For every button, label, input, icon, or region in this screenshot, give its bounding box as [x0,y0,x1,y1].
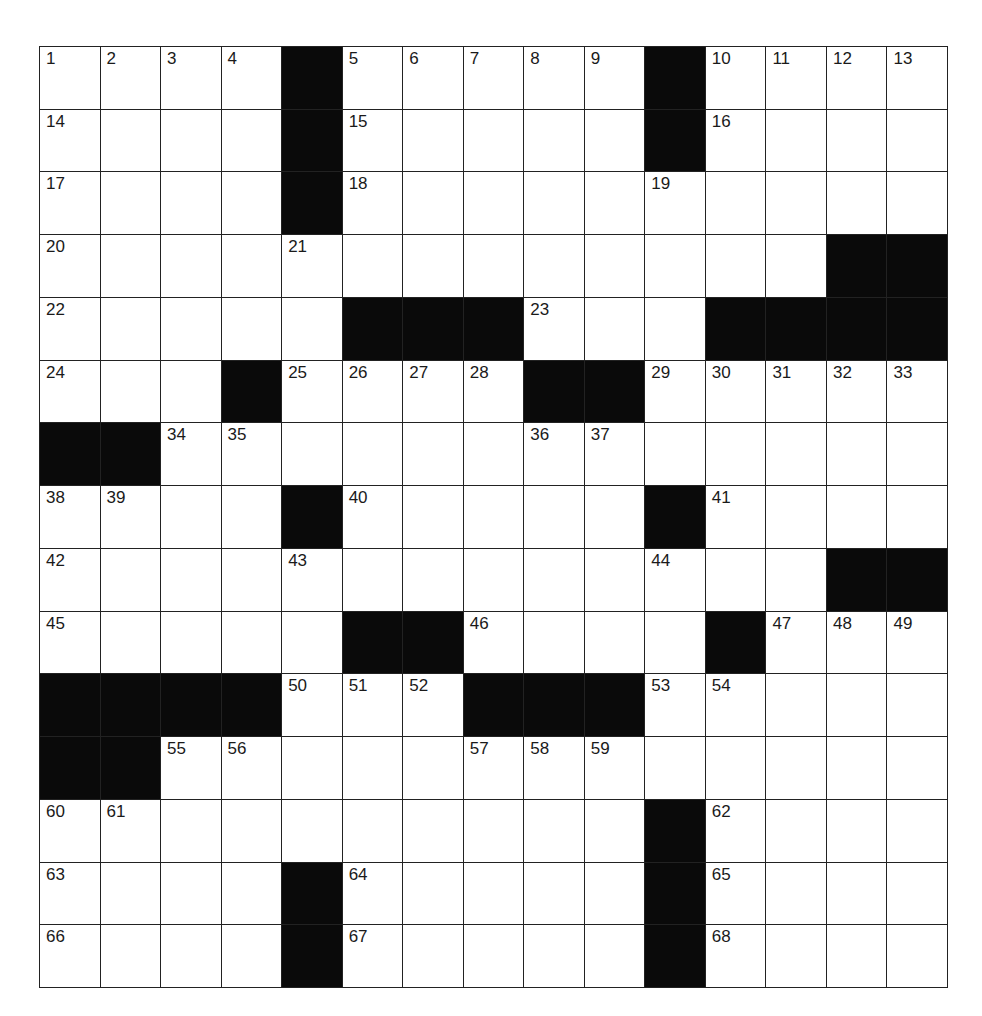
grid-cell[interactable]: 48 [827,612,888,675]
grid-cell[interactable] [222,612,283,675]
grid-cell[interactable]: 67 [343,925,404,988]
grid-cell[interactable] [827,925,888,988]
grid-cell[interactable] [524,800,585,863]
grid-cell[interactable] [222,298,283,361]
grid-cell[interactable]: 19 [645,172,706,235]
grid-cell[interactable] [464,800,525,863]
grid-cell[interactable] [101,235,162,298]
grid-cell[interactable] [887,737,948,800]
grid-cell[interactable] [222,549,283,612]
grid-cell[interactable] [101,925,162,988]
grid-cell[interactable]: 14 [40,110,101,173]
grid-cell[interactable] [282,612,343,675]
grid-cell[interactable]: 42 [40,549,101,612]
grid-cell[interactable] [403,235,464,298]
grid-cell[interactable] [161,612,222,675]
grid-cell[interactable] [101,361,162,424]
grid-cell[interactable] [827,423,888,486]
grid-cell[interactable]: 16 [706,110,767,173]
grid-cell[interactable] [585,172,646,235]
grid-cell[interactable]: 6 [403,47,464,110]
grid-cell[interactable] [282,423,343,486]
grid-cell[interactable] [343,423,404,486]
grid-cell[interactable] [161,235,222,298]
grid-cell[interactable] [585,800,646,863]
grid-cell[interactable]: 50 [282,674,343,737]
grid-cell[interactable] [524,863,585,926]
grid-cell[interactable]: 27 [403,361,464,424]
grid-cell[interactable] [766,800,827,863]
grid-cell[interactable]: 41 [706,486,767,549]
grid-cell[interactable] [645,737,706,800]
grid-cell[interactable]: 31 [766,361,827,424]
grid-cell[interactable]: 46 [464,612,525,675]
grid-cell[interactable]: 49 [887,612,948,675]
grid-cell[interactable] [101,549,162,612]
grid-cell[interactable] [585,486,646,549]
grid-cell[interactable] [343,235,404,298]
grid-cell[interactable] [827,863,888,926]
grid-cell[interactable]: 61 [101,800,162,863]
grid-cell[interactable] [464,549,525,612]
grid-cell[interactable]: 22 [40,298,101,361]
grid-cell[interactable] [766,737,827,800]
grid-cell[interactable]: 36 [524,423,585,486]
grid-cell[interactable]: 12 [827,47,888,110]
grid-cell[interactable]: 10 [706,47,767,110]
grid-cell[interactable] [101,612,162,675]
grid-cell[interactable]: 11 [766,47,827,110]
grid-cell[interactable]: 15 [343,110,404,173]
grid-cell[interactable] [161,172,222,235]
grid-cell[interactable] [585,298,646,361]
grid-cell[interactable] [645,423,706,486]
grid-cell[interactable] [766,549,827,612]
grid-cell[interactable]: 62 [706,800,767,863]
grid-cell[interactable]: 55 [161,737,222,800]
grid-cell[interactable] [101,863,162,926]
grid-cell[interactable]: 39 [101,486,162,549]
grid-cell[interactable] [887,800,948,863]
grid-cell[interactable] [524,925,585,988]
grid-cell[interactable] [403,925,464,988]
grid-cell[interactable] [645,298,706,361]
grid-cell[interactable]: 4 [222,47,283,110]
grid-cell[interactable]: 66 [40,925,101,988]
grid-cell[interactable]: 60 [40,800,101,863]
grid-cell[interactable]: 45 [40,612,101,675]
grid-cell[interactable] [464,863,525,926]
grid-cell[interactable]: 65 [706,863,767,926]
grid-cell[interactable] [403,863,464,926]
grid-cell[interactable] [827,172,888,235]
grid-cell[interactable] [222,925,283,988]
grid-cell[interactable] [706,549,767,612]
grid-cell[interactable]: 7 [464,47,525,110]
grid-cell[interactable]: 17 [40,172,101,235]
grid-cell[interactable] [343,800,404,863]
grid-cell[interactable]: 40 [343,486,404,549]
grid-cell[interactable] [827,737,888,800]
grid-cell[interactable] [585,235,646,298]
grid-cell[interactable]: 35 [222,423,283,486]
grid-cell[interactable] [343,549,404,612]
grid-cell[interactable]: 3 [161,47,222,110]
grid-cell[interactable] [101,110,162,173]
grid-cell[interactable] [827,486,888,549]
grid-cell[interactable]: 18 [343,172,404,235]
grid-cell[interactable] [585,110,646,173]
grid-cell[interactable]: 53 [645,674,706,737]
grid-cell[interactable] [464,172,525,235]
grid-cell[interactable] [222,235,283,298]
grid-cell[interactable] [645,235,706,298]
grid-cell[interactable]: 26 [343,361,404,424]
grid-cell[interactable]: 43 [282,549,343,612]
grid-cell[interactable] [766,486,827,549]
grid-cell[interactable]: 28 [464,361,525,424]
grid-cell[interactable]: 58 [524,737,585,800]
grid-cell[interactable] [585,549,646,612]
grid-cell[interactable] [706,235,767,298]
grid-cell[interactable] [161,549,222,612]
grid-cell[interactable] [403,423,464,486]
grid-cell[interactable] [222,172,283,235]
grid-cell[interactable]: 1 [40,47,101,110]
grid-cell[interactable] [161,110,222,173]
